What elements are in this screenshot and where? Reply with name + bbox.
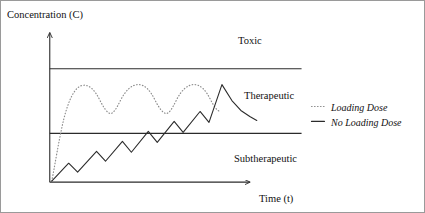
zone-label-subtherapeutic: Subtherapeutic bbox=[234, 153, 297, 164]
figure-frame: Concentration (C) Time (t) Toxic Therape… bbox=[0, 0, 425, 213]
zone-label-therapeutic: Therapeutic bbox=[244, 90, 294, 101]
y-axis-label: Concentration (C) bbox=[7, 9, 83, 20]
legend-label-no-loading-dose: No Loading Dose bbox=[331, 117, 402, 128]
x-axis-label: Time (t) bbox=[259, 193, 293, 204]
legend-label-loading-dose: Loading Dose bbox=[331, 102, 387, 113]
zone-label-toxic: Toxic bbox=[238, 35, 262, 46]
